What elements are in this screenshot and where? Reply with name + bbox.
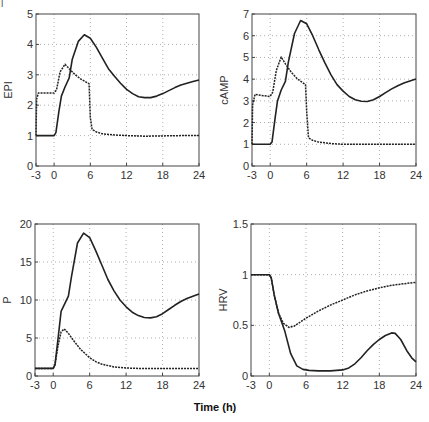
y-tick-label: 0: [242, 370, 248, 382]
series-line-solid: [36, 35, 199, 136]
x-tick-label: 6: [303, 379, 309, 391]
y-tick-label: 1: [242, 269, 248, 281]
x-tick-label: 6: [87, 169, 93, 181]
x-tick-label: 0: [267, 169, 273, 181]
y-tick-label: 1.5: [233, 218, 248, 230]
x-tick-label: 6: [304, 169, 310, 181]
series-line-solid: [252, 21, 416, 145]
y-tick-label: 3: [27, 69, 33, 81]
x-tick-label: 18: [373, 169, 385, 181]
x-tick-label: 24: [193, 169, 205, 181]
hrv-panel: -30612182400.511.5HRV: [217, 218, 422, 391]
y-tick-label: 15: [20, 256, 32, 268]
y-tick-label: 2: [27, 99, 33, 111]
x-tick-label: 18: [156, 379, 168, 391]
series-line-solid: [251, 275, 416, 371]
p-panel: -30612182405101520P: [1, 218, 205, 391]
y-axis-label: P: [1, 296, 13, 303]
series-line-solid: [35, 233, 199, 368]
figure: -306121824012345EPI -30612182401234567cA…: [0, 0, 429, 422]
y-tick-label: 4: [243, 73, 249, 85]
y-tick-label: 10: [20, 294, 32, 306]
camp-panel: -30612182401234567cAMP: [218, 8, 422, 181]
x-tick-label: 0: [266, 379, 272, 391]
y-axis-label: cAMP: [218, 75, 230, 104]
x-tick-label: 24: [410, 379, 422, 391]
y-tick-label: 5: [26, 332, 32, 344]
y-tick-label: 0: [26, 370, 32, 382]
epi-panel: -306121824012345EPI: [2, 8, 205, 181]
y-tick-label: 2: [243, 117, 249, 129]
axes-frame: [36, 14, 199, 166]
y-tick-label: 5: [243, 51, 249, 63]
y-axis-label: HRV: [217, 288, 229, 312]
x-tick-label: 6: [87, 379, 93, 391]
x-tick-label: 0: [51, 169, 57, 181]
y-tick-label: 7: [243, 8, 249, 20]
x-tick-label: 18: [373, 379, 385, 391]
y-tick-label: 0.5: [233, 319, 248, 331]
x-tick-label: 12: [120, 169, 132, 181]
x-tick-label: 18: [157, 169, 169, 181]
series-line-dashed: [35, 329, 199, 369]
x-tick-label: 24: [410, 169, 422, 181]
y-tick-label: 1: [243, 138, 249, 150]
x-tick-label: 24: [193, 379, 205, 391]
y-tick-label: 6: [243, 30, 249, 42]
y-tick-label: 4: [27, 38, 33, 50]
y-tick-label: 20: [20, 218, 32, 230]
y-tick-label: 1: [27, 130, 33, 142]
y-tick-label: 0: [27, 160, 33, 172]
y-tick-label: 5: [27, 8, 33, 20]
x-tick-label: 12: [337, 379, 349, 391]
y-axis-label: EPI: [2, 81, 14, 99]
x-tick-label: 0: [50, 379, 56, 391]
x-tick-label: 12: [337, 169, 349, 181]
x-tick-label: 12: [120, 379, 132, 391]
x-axis-label: Time (h): [194, 401, 237, 413]
series-line-dashed: [251, 275, 416, 328]
y-tick-label: 3: [243, 95, 249, 107]
y-tick-label: 0: [243, 160, 249, 172]
